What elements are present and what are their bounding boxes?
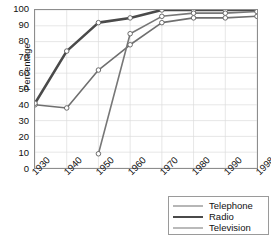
y-tick-label: 80 (18, 36, 29, 46)
legend-label: Television (209, 222, 251, 233)
y-axis-tick-labels: 1009080706050403020100 (0, 0, 32, 169)
legend-line-swatch (172, 211, 204, 222)
legend-item-television[interactable]: Television (172, 222, 264, 233)
legend-item-telephone[interactable]: Telephone (172, 200, 264, 211)
legend-item-radio[interactable]: Radio (172, 211, 264, 222)
chart-legend[interactable]: TelephoneRadioTelevision (168, 196, 269, 235)
y-tick-label: 70 (18, 52, 29, 62)
plot-area (34, 9, 258, 169)
legend-label: Telephone (209, 200, 253, 211)
line-chart: Percentage 1009080706050403020100 193019… (0, 0, 271, 238)
y-tick-label: 50 (18, 84, 29, 94)
y-tick-label: 20 (18, 132, 29, 142)
y-tick-label: 100 (13, 4, 29, 14)
y-tick-label: 40 (18, 100, 29, 110)
legend-line-swatch (172, 200, 204, 211)
y-tick-label: 30 (18, 116, 29, 126)
legend-line-swatch (172, 222, 204, 233)
series-lines (35, 10, 257, 168)
y-tick-label: 10 (18, 148, 29, 158)
y-tick-label: 90 (18, 20, 29, 30)
legend-label: Radio (209, 211, 234, 222)
y-tick-label: 60 (18, 68, 29, 78)
